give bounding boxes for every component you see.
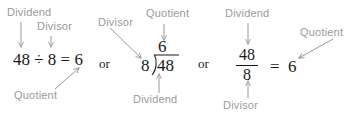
label-dividend-fraction: Dividend xyxy=(225,7,269,19)
fraction-numerator: 48 xyxy=(237,47,257,64)
or-separator-2: or xyxy=(198,56,209,72)
label-divisor-inline: Divisor xyxy=(37,20,72,32)
label-quotient-longdivision: Quotient xyxy=(146,7,189,19)
fraction-equals-sign: = xyxy=(270,57,280,77)
expression-inline: 48 ÷ 8 = 6 xyxy=(13,50,83,70)
fraction-expression: 48 8 xyxy=(236,47,258,84)
arrow-quotient-fraction xyxy=(299,39,333,58)
fraction-denominator: 8 xyxy=(241,67,253,84)
long-division-dividend: 48 xyxy=(157,56,174,76)
fraction-quotient-value: 6 xyxy=(288,57,297,77)
arrow-quotient-inline xyxy=(55,68,79,89)
or-separator-1: or xyxy=(99,56,110,72)
label-divisor-longdivision: Divisor xyxy=(98,16,133,28)
long-division-divisor: 8 xyxy=(141,56,150,76)
label-divisor-fraction: Divisor xyxy=(223,99,258,111)
label-dividend-longdivision: Dividend xyxy=(133,93,177,105)
label-quotient-fraction: Quotient xyxy=(300,26,343,38)
label-dividend-inline: Dividend xyxy=(7,6,51,18)
division-notation-diagram: Dividend Divisor 48 ÷ 8 = 6 Quotient or … xyxy=(0,0,359,115)
arrow-divisor-longdivision xyxy=(110,28,141,58)
label-quotient-inline: Quotient xyxy=(14,89,57,101)
